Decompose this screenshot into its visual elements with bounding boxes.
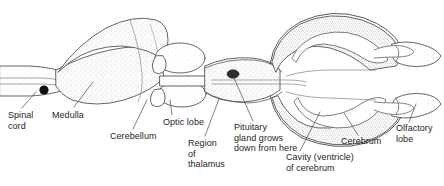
leader-thalamus (205, 99, 219, 136)
label-spinal-cord: Spinal cord (8, 110, 33, 131)
cerebral-aqueduct-2 (286, 92, 376, 100)
optic-lobe-small-upper (152, 56, 166, 74)
label-olfactory-lobe: Olfactory lobe (396, 123, 432, 144)
label-cerebellum: Cerebellum (110, 131, 157, 142)
optic-lobe-small-lower (150, 89, 165, 107)
label-region-of-thalamus: Region of thalamus (188, 138, 225, 170)
label-cavity-ventricle: Cavity (ventricle) of cerebrum (286, 152, 354, 173)
midbrain-band (160, 76, 212, 86)
diagram-canvas: Spinal cord Medulla Cerebellum Optic lob… (0, 0, 444, 186)
pituitary-spot (227, 70, 239, 78)
cerebral-aqueduct (286, 70, 376, 76)
leader-cerebellum (133, 100, 147, 129)
label-medulla: Medulla (52, 110, 84, 121)
spinal-cord-marker-dot (39, 85, 48, 94)
label-pituitary-gland: Pituitary gland grows down from here (234, 122, 297, 154)
label-optic-lobe: Optic lobe (163, 117, 204, 128)
label-cerebrum: Cerebrum (341, 136, 381, 147)
